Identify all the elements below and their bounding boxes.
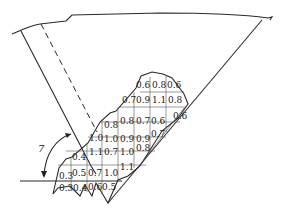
grid-value: 0.9 [120, 134, 134, 144]
angle-label: 7 [38, 143, 44, 154]
grid-value: 1.0 [89, 133, 103, 143]
grid-value: 0.5 [72, 168, 86, 178]
grid-value: 0.7 [136, 116, 150, 126]
angle-arc [44, 134, 71, 176]
grid-value: 0.6 [151, 116, 165, 126]
grid-value: 1.1 [152, 95, 166, 105]
grid-value: 0.7 [122, 95, 136, 105]
grid-value: 0.6 [88, 182, 102, 192]
grid-value: 0.7 [88, 168, 102, 178]
grid-value: 0.7 [151, 129, 165, 139]
dashed-reference-line [41, 24, 97, 132]
grid-value: 0.6 [167, 80, 181, 90]
grid-value: 0.8 [136, 143, 150, 153]
grid-value: 0.8 [120, 116, 134, 126]
grid-value: 0.8 [104, 120, 118, 130]
grid-value: 0.3 [59, 183, 73, 193]
grid-value: 0.6 [173, 111, 187, 121]
grid-value: 0.9 [136, 95, 150, 105]
grid-value: 0.8 [168, 95, 182, 105]
grid-value: 0.4 [72, 152, 86, 162]
grid-value: 0.7 [104, 147, 118, 157]
grid-value: 0.6 [136, 80, 150, 90]
grid-value: 0.4 [73, 183, 87, 193]
grid-value: 1.1 [89, 147, 103, 157]
arrowhead-lower-icon [41, 171, 47, 178]
grid-value: 1.0 [120, 147, 134, 157]
grid-value: 0.8 [152, 80, 166, 90]
grid-value: 1.0 [104, 168, 118, 178]
top-surface-line [12, 13, 272, 34]
grid-value: 1.1 [120, 162, 134, 172]
grid-value: 0.5 [102, 182, 116, 192]
diagram-canvas [0, 0, 282, 211]
grid-value: 1.0 [104, 134, 118, 144]
